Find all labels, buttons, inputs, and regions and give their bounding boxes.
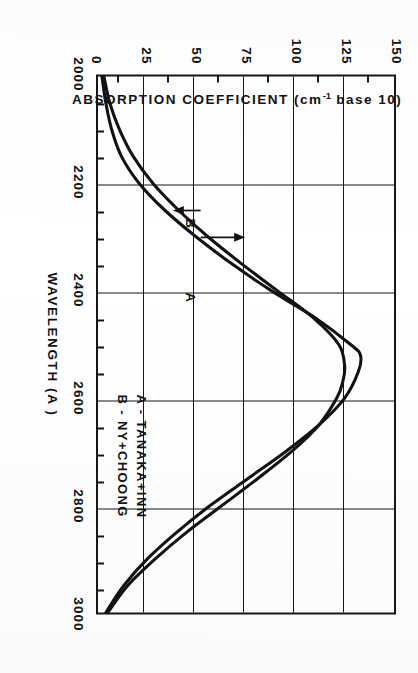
y-axis-title-suffix: base 10)	[331, 92, 402, 107]
xtick-label: 2600	[71, 381, 86, 415]
ytick-label: 125	[339, 38, 354, 64]
xtick-label: 2800	[71, 489, 86, 523]
ytick-label: 50	[189, 47, 204, 64]
y-axis-title-prefix: ABSORPTION COEFFICIENT (cm	[72, 92, 323, 107]
ytick-label: 75	[239, 47, 254, 64]
y-axis-title: ABSORPTION COEFFICIENT (cm-1 base 10)	[27, 89, 418, 107]
y-axis-title-exponent: -1	[323, 89, 331, 100]
annotation-label-b: B	[183, 218, 198, 228]
data-curves	[98, 76, 394, 612]
curve-series-a	[102, 76, 361, 612]
xtick-label: 3000	[71, 597, 86, 631]
annotation-label-a: A	[183, 292, 198, 302]
legend-entry-a: A - TANAKA+INN	[132, 394, 151, 518]
ytick-label: 150	[389, 38, 404, 64]
figure: A B A - TANAKA+INN B - NY+CHOONG 2000 22…	[0, 0, 418, 673]
xtick-label: 2200	[71, 165, 86, 199]
curve-series-b	[104, 76, 345, 612]
xtick-label: 2400	[71, 273, 86, 307]
xtick-label: 2000	[71, 57, 86, 91]
x-axis-title: WAVELENGTH (A )	[45, 272, 60, 416]
rotated-figure-stage: A B A - TANAKA+INN B - NY+CHOONG 2000 22…	[0, 0, 418, 673]
legend-entry-b: B - NY+CHOONG	[113, 394, 132, 518]
plot-area: A B A - TANAKA+INN B - NY+CHOONG	[96, 74, 396, 614]
legend: A - TANAKA+INN B - NY+CHOONG	[113, 394, 151, 518]
ytick-label: 0	[89, 55, 104, 64]
ytick-label: 25	[139, 47, 154, 64]
ytick-label: 100	[289, 38, 304, 64]
